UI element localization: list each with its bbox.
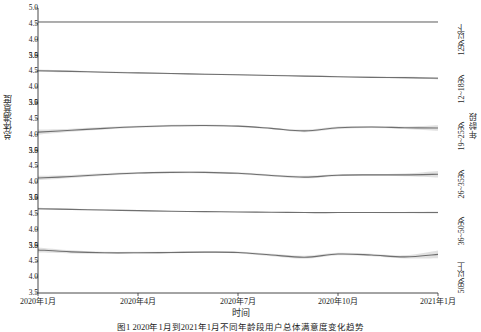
- y-axis-tick-label: 4.0: [16, 36, 38, 44]
- facet-panel: [38, 247, 438, 258]
- panel-strip-label: 12岁以下: [456, 8, 467, 56]
- x-axis-title: 时间: [0, 306, 481, 319]
- y-axis-tick-label: 4.5: [16, 115, 38, 123]
- x-axis-tick-label: 2020年1月: [20, 295, 56, 306]
- trend-line: [38, 71, 438, 79]
- y-axis-tick-label: 5.0: [16, 147, 38, 155]
- x-axis-tick-label: 2021年1月: [420, 295, 456, 306]
- facet-panel: [38, 69, 438, 79]
- x-axis-tick-label: 2020年7月: [220, 295, 256, 306]
- y-axis-tick-label: 4.5: [16, 257, 38, 265]
- y-axis-tick-label: 5.0: [16, 194, 38, 202]
- y-axis-tick-label: 4.5: [16, 162, 38, 170]
- x-axis-tick-label: 2020年10月: [318, 295, 358, 306]
- facet-panel: [38, 208, 438, 214]
- facet-panel: [38, 125, 438, 135]
- panel-strip-label: 36~50岁: [456, 198, 467, 246]
- right-axis-title: 年龄段: [468, 112, 480, 139]
- trend-line: [38, 172, 438, 178]
- y-axis-tick-label: 4.0: [16, 83, 38, 91]
- y-axis-tick-label: 4.0: [16, 178, 38, 186]
- y-axis-tick-label: 5.0: [16, 242, 38, 250]
- facet-panel: [38, 171, 438, 180]
- y-axis-tick-label: 4.5: [16, 20, 38, 28]
- figure-caption: 图1 2020年1月到2021年1月不同年龄段用户总体满意度变化趋势: [0, 320, 481, 332]
- y-axis-tick-label: 4.0: [16, 273, 38, 281]
- x-axis-tick-label: 2020年4月: [120, 295, 156, 306]
- panel-strip-label: 12~18岁: [456, 56, 467, 104]
- panel-strip-label: 19~25岁: [456, 103, 467, 151]
- facet-panel: [38, 21, 438, 22]
- y-axis-tick-label: 4.0: [16, 226, 38, 234]
- confidence-band: [38, 171, 438, 180]
- y-axis-tick-label: 4.5: [16, 67, 38, 75]
- y-axis-tick-label: 4.5: [16, 210, 38, 218]
- y-axis-tick-label: 5.0: [16, 4, 38, 12]
- y-axis-tick-label: 5.0: [16, 99, 38, 107]
- y-axis-tick-label: 5.0: [16, 52, 38, 60]
- y-axis-tick-label: 4.0: [16, 131, 38, 139]
- panel-strip-label: 50岁以上: [456, 246, 467, 294]
- y-axis-tick-column: 3.54.04.55.03.54.04.55.03.54.04.55.03.54…: [14, 0, 38, 293]
- panel-strip-label: 26~35岁: [456, 151, 467, 199]
